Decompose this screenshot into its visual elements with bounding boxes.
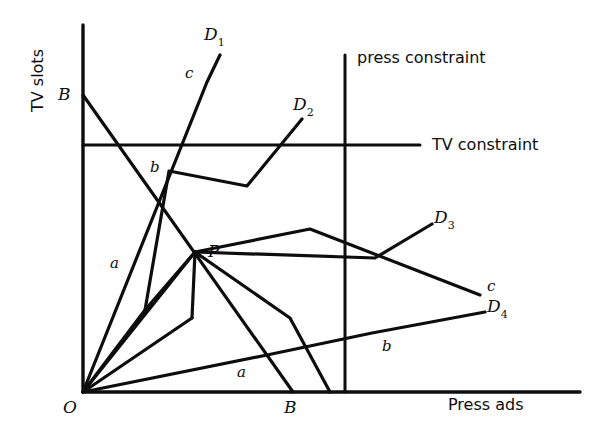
segment-label-b-upper: b <box>150 160 160 175</box>
ray-d3 <box>83 224 432 392</box>
optimum-point-label: P <box>208 243 219 260</box>
curve-label-d1: D1 <box>204 26 225 46</box>
curve-label-d1-letter: D <box>204 24 218 44</box>
segment-label-c-upper: c <box>185 66 193 81</box>
budget-x-intercept-label: B <box>284 399 297 416</box>
curve-label-d2-letter: D <box>293 94 307 114</box>
diagram-canvas <box>0 0 589 439</box>
tv-constraint-label: TV constraint <box>432 137 538 153</box>
curve-label-d3: D3 <box>434 209 455 229</box>
path-c-descending <box>192 229 480 318</box>
press-constraint-label: press constraint <box>357 50 486 66</box>
curve-label-d2-subscript: 2 <box>307 106 314 119</box>
curve-label-d1-subscript: 1 <box>218 36 225 49</box>
segment-label-c-lower: c <box>487 279 495 294</box>
curve-label-d3-letter: D <box>434 207 448 227</box>
segment-label-b-lower: b <box>382 339 392 354</box>
origin-label: O <box>63 399 77 416</box>
curve-label-d3-subscript: 3 <box>448 219 455 232</box>
curve-label-d2: D2 <box>293 96 314 116</box>
x-axis-label: Press ads <box>448 397 524 413</box>
segment-label-a-lower: a <box>237 365 246 380</box>
curve-label-d4: D4 <box>487 298 508 318</box>
segment-label-a-upper: a <box>110 256 119 271</box>
curve-label-d4-letter: D <box>487 296 501 316</box>
y-axis-label: TV slots <box>30 49 46 112</box>
ray-d1 <box>83 55 220 392</box>
economics-diagram: TV slots Press ads O B B P press constra… <box>0 0 589 439</box>
budget-y-intercept-label: B <box>58 86 71 103</box>
budget-line <box>83 95 293 392</box>
curve-label-d4-subscript: 4 <box>501 308 508 321</box>
